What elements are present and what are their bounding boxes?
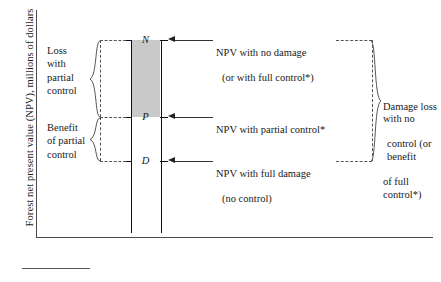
arrow-n xyxy=(168,36,175,42)
bar-left-edge xyxy=(131,40,133,233)
marker-label-n: N xyxy=(137,35,155,46)
annotation-npv-no-damage-line1: NPV with no damage xyxy=(216,47,307,58)
arrow-p xyxy=(168,113,175,119)
dash-d-left xyxy=(100,161,126,162)
leader-n xyxy=(175,40,213,41)
figure-canvas: Forest net present value (NPV), millions… xyxy=(0,0,441,282)
annotation-npv-partial-control-line1: NPV with partial control* xyxy=(216,124,325,135)
annotation-npv-no-damage: NPV with no damage (or with full control… xyxy=(216,34,341,84)
annotation-benefit-of-partial-control: Benefit of partial control xyxy=(47,121,102,161)
marker-label-p: P xyxy=(137,112,155,123)
annotation-npv-no-damage-line2: (or with full control*) xyxy=(216,72,314,85)
marker-label-d: D xyxy=(137,156,155,167)
leader-d xyxy=(175,161,213,162)
tick-p-right xyxy=(160,117,168,118)
annotation-benefit-of-partial-control-text: Benefit of partial control xyxy=(47,122,85,160)
annotation-damage-loss-no-control-line2: control (or benefit xyxy=(383,138,441,163)
brace-damage-loss-no-control xyxy=(370,40,383,162)
dash-n-left xyxy=(100,40,126,41)
annotation-loss-with-partial-control: Loss with partial control xyxy=(47,44,95,98)
dash-outer-top xyxy=(336,40,372,41)
y-axis-label: Forest net present value (NPV), millions… xyxy=(24,3,35,233)
annotation-npv-full-damage-line1: NPV with full damage xyxy=(216,168,311,179)
annotation-damage-loss-no-control-line1: Damage loss with no xyxy=(383,101,437,125)
dash-p-left xyxy=(100,117,126,118)
footnote-rule xyxy=(22,268,90,269)
x-axis-line xyxy=(36,237,433,238)
tick-n-right xyxy=(160,40,168,41)
dash-outer-bottom xyxy=(336,161,372,162)
leader-p xyxy=(175,117,213,118)
annotation-npv-partial-control: NPV with partial control* xyxy=(216,111,351,136)
annotation-damage-loss-no-control-line3: of full control*) xyxy=(383,176,422,200)
y-axis-line xyxy=(36,10,37,238)
annotation-npv-full-damage-line2: (no control) xyxy=(216,193,272,206)
annotation-npv-full-damage: NPV with full damage (no control) xyxy=(216,155,346,205)
shaded-region-partial-control xyxy=(132,40,160,117)
arrow-d xyxy=(168,157,175,163)
tick-d-right xyxy=(160,161,168,162)
annotation-loss-with-partial-control-text: Loss with partial control xyxy=(47,45,77,96)
annotation-damage-loss-no-control: Damage loss with no control (or benefit … xyxy=(383,88,441,201)
bar-right-edge xyxy=(161,40,163,233)
